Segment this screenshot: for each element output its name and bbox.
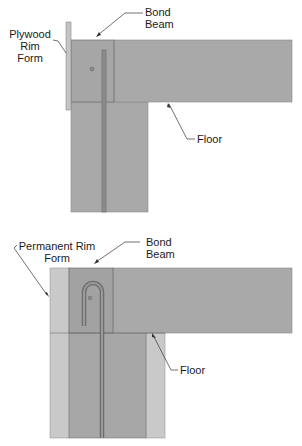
label-line: Floor bbox=[197, 133, 222, 145]
top-rebar bbox=[102, 50, 106, 212]
label-line: Beam bbox=[145, 18, 174, 30]
label-line: Bond bbox=[146, 236, 175, 248]
label-line: Form bbox=[18, 252, 96, 264]
top-plywood-rim-form bbox=[66, 22, 71, 110]
bottom-bond-beam-leader bbox=[96, 242, 140, 262]
top-rim-form-leader bbox=[53, 40, 66, 53]
bottom-permanent-rim-form bbox=[50, 268, 69, 438]
top-floor-leader bbox=[169, 104, 195, 139]
label-line: Plywood bbox=[6, 28, 54, 40]
bottom-floor-slab bbox=[113, 268, 292, 333]
arrow-icon bbox=[167, 103, 171, 108]
top-rim-form-label: Plywood Rim Form bbox=[6, 28, 54, 64]
bottom-wall bbox=[69, 333, 146, 438]
label-line: Beam bbox=[146, 248, 175, 260]
top-wall bbox=[71, 102, 148, 212]
label-line: Floor bbox=[180, 364, 205, 376]
top-diagram bbox=[53, 13, 292, 212]
label-line: Bond bbox=[145, 6, 174, 18]
top-bond-beam-leader bbox=[98, 13, 143, 35]
top-floor-slab bbox=[114, 40, 292, 102]
arrow-icon bbox=[45, 292, 49, 297]
bottom-bond-beam bbox=[69, 268, 113, 333]
label-line: Permanent Rim bbox=[18, 240, 96, 252]
top-rebar-dot bbox=[90, 67, 94, 71]
bottom-wall-form-right bbox=[146, 333, 165, 438]
bottom-floor-label: Floor bbox=[180, 364, 205, 376]
label-line: Rim Form bbox=[6, 40, 54, 64]
bottom-bond-beam-label: Bond Beam bbox=[146, 236, 175, 260]
bottom-rim-form-label: Permanent Rim Form bbox=[18, 240, 96, 264]
bond-beam-diagrams bbox=[0, 0, 302, 446]
bottom-diagram bbox=[14, 242, 292, 438]
top-floor-label: Floor bbox=[197, 133, 222, 145]
top-bond-beam-label: Bond Beam bbox=[145, 6, 174, 30]
bottom-rebar-dot bbox=[88, 296, 92, 300]
